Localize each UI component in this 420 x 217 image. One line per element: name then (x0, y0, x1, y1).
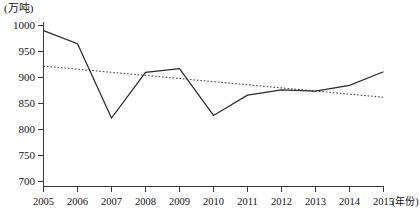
x-tick-label: 2006 (67, 196, 88, 207)
y-tick-label: 750 (19, 149, 36, 161)
y-axis-ticks: 1000 950 900 850 800 750 700 (13, 19, 44, 187)
y-tick-label: 900 (19, 71, 36, 83)
x-tick-label: 2005 (33, 196, 54, 207)
y-tick-label: 850 (19, 97, 36, 109)
x-tick-label: 2009 (169, 196, 190, 207)
chart-canvas: (万吨) 1000 950 900 850 800 750 700 2005 (0, 0, 420, 217)
x-tick-label: 2007 (101, 196, 122, 207)
y-axis-unit-label: (万吨) (4, 2, 34, 15)
x-tick-label: 2012 (271, 196, 292, 207)
x-tick-label: 2011 (237, 196, 258, 207)
x-tick-label: 2014 (339, 196, 361, 207)
y-tick-label: 700 (19, 175, 36, 187)
x-tick-label: 2008 (135, 196, 156, 207)
axis-lines (44, 22, 385, 187)
line-chart: (万吨) 1000 950 900 850 800 750 700 2005 (0, 0, 420, 217)
x-tick-label: 2015 (373, 196, 394, 207)
x-axis-ticks: 2005 2006 2007 2008 2009 2010 2011 2012 … (33, 187, 394, 208)
y-tick-label: 800 (19, 123, 36, 135)
x-tick-label: 2013 (305, 196, 326, 207)
production-line-series (44, 31, 384, 118)
y-tick-label: 950 (19, 45, 36, 57)
x-axis-unit-label: (年份) (392, 195, 419, 208)
y-tick-label: 1000 (13, 19, 36, 31)
x-tick-label: 2010 (203, 196, 224, 207)
